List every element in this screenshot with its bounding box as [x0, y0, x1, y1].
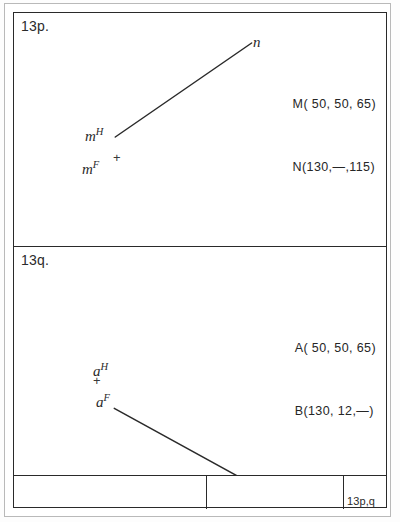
plus-mark-m: +: [113, 150, 121, 165]
panel-13p: 13p. mH mF + n M( 50, 50, 65) N(130,—,11…: [14, 13, 386, 246]
drawing-frame: 13p. mH mF + n M( 50, 50, 65) N(130,—,11…: [13, 12, 387, 508]
coordinate-line-m: M( 50, 50, 65): [293, 94, 376, 115]
segment-mn: [115, 43, 251, 137]
title-block: 13p,q: [14, 475, 386, 509]
point-label-n: n: [253, 34, 261, 51]
panel-13q: 13q. aH + aF b A( 50, 50, 65) B(130, 12,…: [14, 246, 386, 475]
coordinates-13p: M( 50, 50, 65) N(130,—,115): [293, 52, 376, 220]
coordinate-line-b: B(130, 12,—): [295, 401, 376, 422]
plus-mark-a: +: [93, 373, 101, 388]
point-sup-m-h: H: [96, 126, 104, 137]
point-label-m-f: mF: [82, 159, 100, 178]
coordinate-line-n: N(130,—,115): [293, 157, 376, 178]
title-block-middle-cell: [207, 476, 344, 509]
point-sup-a-f: F: [104, 392, 111, 403]
point-label-a-f: aF: [96, 392, 110, 411]
panel-label-13q: 13q.: [21, 252, 49, 268]
title-block-sheet-id: 13p,q: [344, 495, 375, 509]
worksheet-page: 13p. mH mF + n M( 50, 50, 65) N(130,—,11…: [0, 0, 400, 522]
coordinate-line-a: A( 50, 50, 65): [295, 338, 376, 359]
title-block-right-cell: 13p,q: [344, 476, 386, 509]
point-sup-m-f: F: [93, 159, 100, 170]
coordinates-13q: A( 50, 50, 65) B(130, 12,—): [295, 296, 376, 464]
panel-label-13p: 13p.: [21, 18, 49, 34]
point-sup-a-h: H: [101, 361, 109, 372]
point-base-m-h: m: [85, 128, 96, 144]
title-block-left-cell: [14, 476, 207, 509]
point-base-a-f: a: [96, 394, 104, 410]
point-base-n: n: [253, 34, 261, 50]
point-base-m-f: m: [82, 161, 93, 177]
point-label-m-h: mH: [85, 126, 104, 145]
segment-ab: [114, 408, 244, 475]
